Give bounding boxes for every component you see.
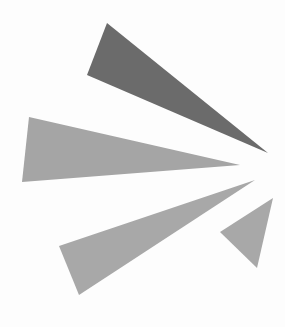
dark-ray-triangle <box>87 23 268 153</box>
burst-logo-svg <box>0 0 285 327</box>
small-ray-triangle <box>220 198 273 268</box>
burst-logo <box>0 0 285 327</box>
long-lower-ray-triangle <box>59 180 255 295</box>
